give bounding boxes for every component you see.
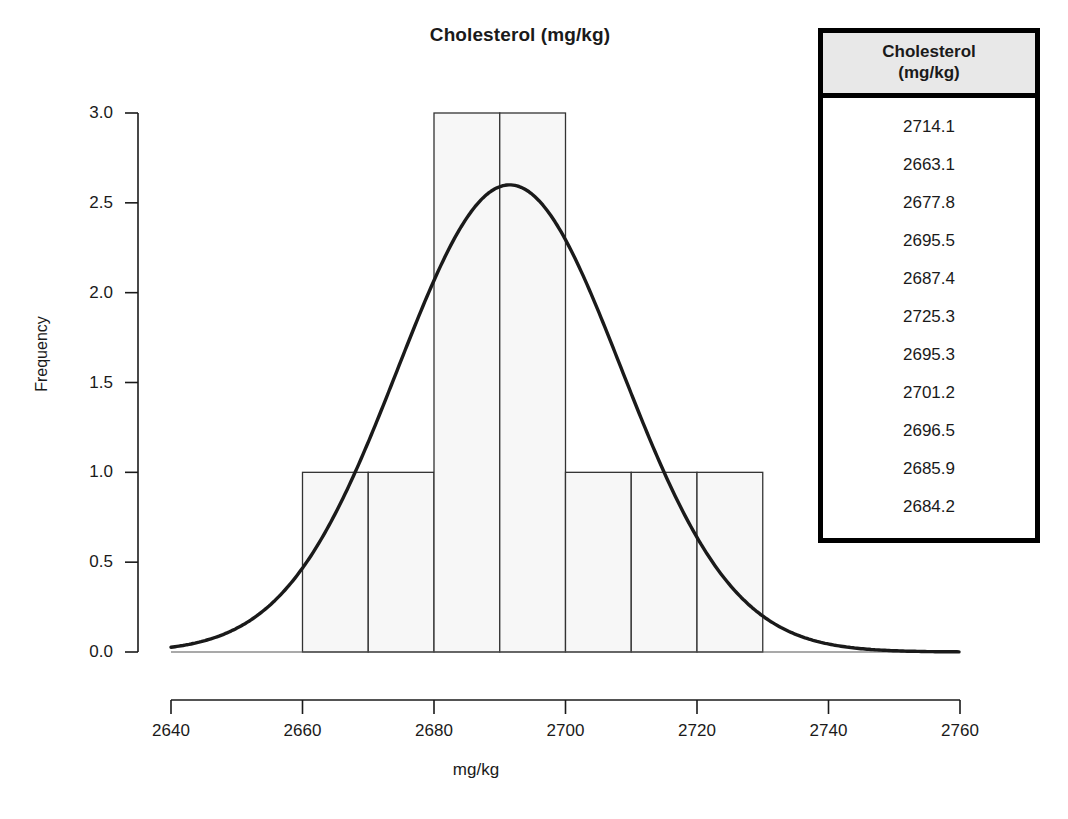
table-row: 2685.9 xyxy=(827,450,1031,488)
table-row: 2695.3 xyxy=(827,336,1031,374)
table-row: 2696.5 xyxy=(827,412,1031,450)
data-table: Cholesterol (mg/kg) 2714.12663.12677.826… xyxy=(818,28,1040,543)
table-row: 2687.4 xyxy=(827,260,1031,298)
table-row: 2714.1 xyxy=(827,108,1031,146)
data-table-header-line2: (mg/kg) xyxy=(827,62,1031,83)
data-table-header-line1: Cholesterol xyxy=(827,41,1031,62)
data-table-header: Cholesterol (mg/kg) xyxy=(823,33,1035,98)
x-axis xyxy=(171,700,960,714)
table-row: 2684.2 xyxy=(827,488,1031,526)
table-row: 2663.1 xyxy=(827,146,1031,184)
table-row: 2677.8 xyxy=(827,184,1031,222)
table-row: 2695.5 xyxy=(827,222,1031,260)
table-row: 2725.3 xyxy=(827,298,1031,336)
x-axis-title: mg/kg xyxy=(396,760,556,780)
data-table-body: 2714.12663.12677.82695.52687.42725.32695… xyxy=(823,98,1035,538)
table-row: 2701.2 xyxy=(827,374,1031,412)
y-axis xyxy=(125,113,138,652)
